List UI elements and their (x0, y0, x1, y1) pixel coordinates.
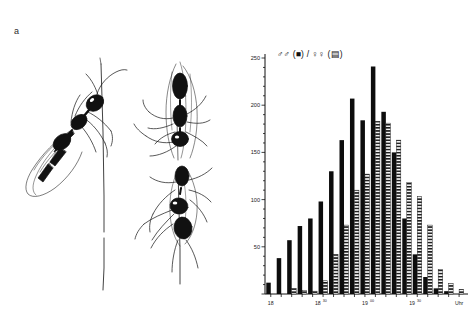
svg-text:18: 18 (315, 300, 321, 306)
bar-male (444, 291, 449, 294)
bar-male (360, 120, 365, 294)
winged-ant-left (26, 70, 127, 197)
bar-male (371, 67, 376, 295)
bar-female (438, 269, 443, 294)
bar-male (266, 283, 271, 294)
bar-female (292, 288, 297, 294)
bar-female (302, 290, 307, 294)
bar-female (407, 183, 412, 294)
bar-male (329, 171, 334, 294)
bar-female (365, 174, 370, 294)
x-tick-label: 1900 (362, 299, 374, 306)
svg-text:19: 19 (362, 300, 368, 306)
y-tick-label: 250 (251, 55, 260, 61)
panel-a-illustration: a (0, 0, 240, 313)
x-tick-label: 1830 (315, 299, 327, 306)
y-tick-label: 200 (251, 102, 260, 108)
svg-text:00: 00 (370, 299, 374, 303)
bar-male (298, 226, 303, 294)
bar-female (417, 197, 422, 294)
svg-text:18: 18 (268, 300, 274, 306)
bar-female (354, 190, 359, 294)
x-tick-label: Uhr (455, 300, 464, 306)
bar-male (402, 218, 407, 294)
bar-female (459, 289, 464, 294)
svg-text:30: 30 (323, 299, 327, 303)
grass-stem-center (100, 58, 104, 290)
y-tick-label: 100 (251, 197, 260, 203)
x-tick-label: 1930 (409, 299, 421, 306)
bar-male (308, 218, 313, 294)
y-tick-label: 150 (251, 149, 260, 155)
svg-text:19: 19 (409, 300, 415, 306)
y-tick-label: 50 (254, 244, 260, 250)
bar-female (449, 284, 454, 294)
bar-female (386, 123, 391, 294)
winged-ant-lower-right (135, 166, 212, 272)
bar-male (381, 112, 386, 294)
bar-female (396, 140, 401, 294)
winged-ant-upper-right (134, 62, 210, 158)
bar-female (323, 281, 328, 294)
svg-text:Uhr: Uhr (455, 300, 464, 306)
bar-male (319, 201, 324, 294)
bar-female (334, 254, 339, 294)
bar-female (344, 225, 349, 294)
bar-female (428, 225, 433, 294)
svg-text:30: 30 (417, 299, 421, 303)
bar-male (287, 240, 292, 294)
bar-male (277, 258, 282, 294)
panel-b-chart: b ♂♂ (■) / ♀♀ (▤) 5010015020025018183019… (240, 0, 475, 313)
bar-female (375, 121, 380, 294)
bar-male (413, 254, 418, 294)
bar-male (340, 140, 345, 294)
ant-illustration-svg (0, 0, 240, 313)
bar-male (392, 152, 397, 294)
bar-male (434, 288, 439, 294)
bar-male (423, 277, 428, 294)
flight-activity-bar-chart: 5010015020025018183019001930Uhr (240, 0, 475, 313)
x-tick-label: 18 (268, 300, 274, 306)
bar-male (350, 99, 355, 294)
bar-female (313, 291, 318, 294)
